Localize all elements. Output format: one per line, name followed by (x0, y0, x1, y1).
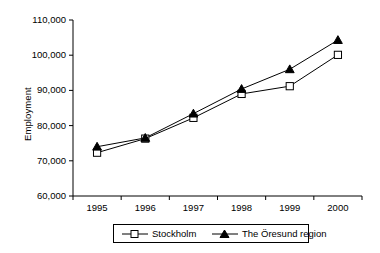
data-point-marker-filled-triangle (237, 85, 246, 93)
data-point-marker-filled-triangle (189, 109, 198, 117)
y-tick-label: 90,000 (14, 85, 66, 95)
x-axis-ticks (73, 196, 362, 200)
series-markers (93, 36, 343, 157)
legend-marker-open-square-icon (122, 228, 148, 240)
data-point-marker-filled-triangle (334, 36, 343, 44)
data-point-marker-open-square (334, 51, 341, 58)
y-axis-ticks (69, 20, 73, 196)
y-tick-label: 110,000 (14, 15, 66, 25)
y-tick-label: 80,000 (14, 121, 66, 131)
y-tick-label: 100,000 (14, 50, 66, 60)
x-tick-label: 1995 (72, 203, 122, 213)
x-tick-label: 1998 (217, 203, 267, 213)
x-tick-label: 2000 (313, 203, 363, 213)
x-tick-label: 1996 (120, 203, 170, 213)
x-tick-label: 1997 (168, 203, 218, 213)
data-point-marker-open-square (286, 83, 293, 90)
legend-label-oresund: The Öresund region (242, 228, 327, 239)
y-tick-label: 70,000 (14, 156, 66, 166)
legend-item-oresund: The Öresund region (212, 225, 327, 242)
legend-label-stockholm: Stockholm (152, 228, 196, 239)
y-tick-label: 60,000 (14, 191, 66, 201)
legend-item-stockholm: Stockholm (122, 225, 196, 242)
x-tick-label: 1999 (265, 203, 315, 213)
legend-marker-filled-triangle-icon (212, 228, 238, 240)
employment-line-chart: Employment 110,000100,00090,00080,00070,… (0, 0, 380, 253)
legend: Stockholm The Öresund region (113, 224, 309, 243)
data-point-marker-filled-triangle (285, 65, 294, 73)
axis-lines (73, 20, 362, 196)
series-lines (97, 40, 338, 153)
